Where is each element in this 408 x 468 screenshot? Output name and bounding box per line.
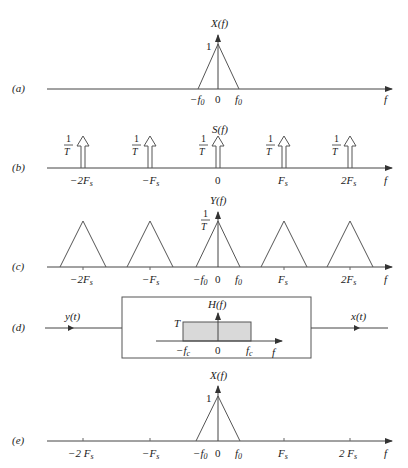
panel-c: (c) Y(f) 1 T −2Fs −Fs −f0 0 f0 Fs 2Fs f [12,194,392,287]
tick-2fs: 2 Fs [339,447,357,461]
spectrum-replica-fs [261,221,307,267]
panel-a: (a) X(f) 1 −f0 0 f0 f [12,17,392,107]
tick-neg-fs: −Fs [142,174,159,188]
impulse-2fs [344,136,356,168]
tick-zero: 0 [215,273,221,285]
svg-text:T: T [199,146,206,157]
spectrum-replica-neg-2fs [60,221,106,267]
output-arrow-icon [354,325,360,331]
tick-neg-2fs: −2 Fs [68,447,94,461]
impulse-weight-label: 1 T [266,133,275,157]
tick-fs: Fs [277,447,288,461]
panel-a-label: (a) [12,82,25,95]
impulse-weight-label: 1 T [199,133,208,157]
svg-text:1: 1 [134,133,139,144]
svg-text:T: T [64,146,71,157]
svg-text:1: 1 [203,208,208,219]
tick-fs: Fs [277,273,288,287]
tick-neg-fs: −Fs [142,447,159,461]
impulse-weight-label: 1 T [132,133,141,157]
peak-label: 1 [206,40,212,52]
tick-f0: f0 [235,447,242,461]
panel-c-label: (c) [12,260,25,273]
y-axis-label: X(f) [210,17,228,30]
impulse-weight-label: 1 T [332,133,341,157]
panel-b: (b) 1 T 1 T 1 T [12,123,392,188]
input-signal-label: y(t) [64,310,81,323]
x-axis-label: f [384,273,389,285]
tick-zero: 0 [215,93,221,105]
y-axis-label: Y(f) [210,194,227,207]
svg-text:T: T [132,146,139,157]
x-axis-label: f [384,93,389,105]
tick-zero: 0 [215,344,221,356]
spectrum-replica-2fs [327,221,373,267]
tick-neg-f0: −f0 [193,447,207,461]
tick-2fs: 2Fs [341,174,356,188]
impulse-zero [212,136,224,168]
svg-text:T: T [201,221,208,232]
peak-label: 1 [206,392,212,404]
svg-text:1: 1 [66,133,71,144]
input-arrow-icon [68,325,74,331]
y-axis-label: S(f) [212,123,228,136]
tick-neg-f0: −f0 [190,93,204,107]
panel-b-label: (b) [12,161,25,174]
panel-d: (d) y(t) H(f) T −fc 0 fc f x(t) [12,297,388,358]
panel-e: (e) X(f) 1 −2 Fs −Fs −f0 0 f0 Fs 2 Fs f [12,369,392,461]
spectrum-replica-neg-fs [127,221,173,267]
filter-y-label: H(f) [207,298,227,311]
tick-f0: f0 [235,93,242,107]
impulse-fs [278,136,290,168]
svg-text:T: T [266,146,273,157]
tick-zero: 0 [215,447,221,459]
panel-e-label: (e) [12,434,25,447]
tick-fs: Fs [277,174,288,188]
sampling-diagram: (a) X(f) 1 −f0 0 f0 f (b) 1 [0,0,408,468]
impulse-neg-2fs [77,136,89,168]
tick-neg-fs: −Fs [142,273,159,287]
x-axis-label: f [384,447,389,459]
tick-neg-2fs: −2Fs [70,174,93,188]
y-axis-label: X(f) [209,369,227,382]
filter-passband [183,322,251,341]
peak-label: 1 T [201,208,210,232]
output-signal-label: x(t) [350,310,367,323]
svg-text:1: 1 [201,133,206,144]
tick-f0: f0 [235,273,242,287]
panel-d-label: (d) [12,321,25,334]
tick-neg-2fs: −2Fs [70,273,93,287]
tick-neg-f0: −f0 [193,273,207,287]
svg-text:T: T [332,146,339,157]
impulse-neg-fs [144,136,156,168]
svg-text:1: 1 [268,133,273,144]
tick-zero: 0 [215,174,221,186]
tick-2fs: 2Fs [341,273,356,287]
impulse-weight-label: 1 T [64,133,73,157]
x-axis-label: f [384,174,389,186]
svg-text:1: 1 [334,133,339,144]
filter-gain-label: T [174,317,181,329]
